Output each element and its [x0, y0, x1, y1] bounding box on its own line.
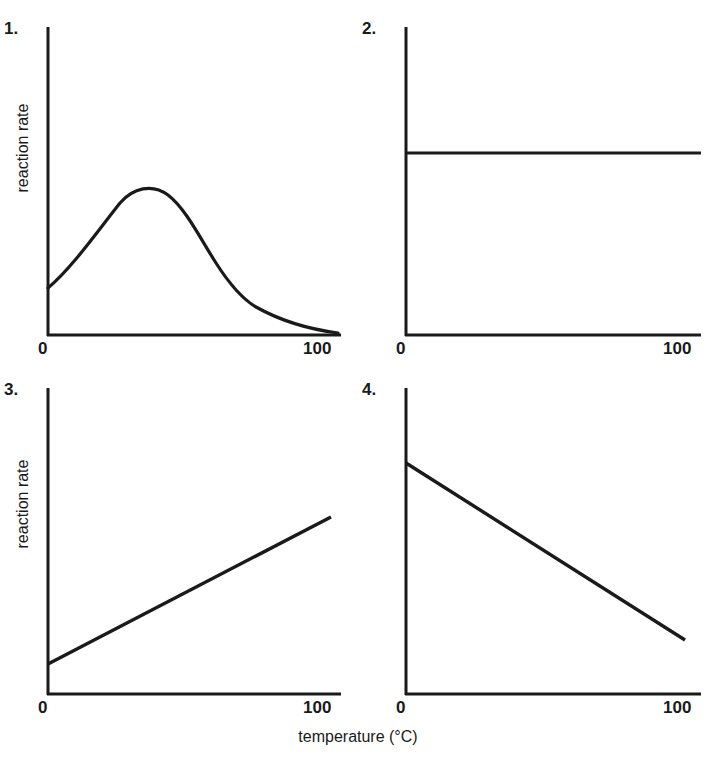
panel-3-tick-100: 100 [303, 699, 331, 716]
four-panel-graph-figure: 1. reaction rate 0 100 2. 0 100 3. react… [0, 0, 716, 757]
x-axis-title: temperature (°C) [0, 729, 716, 745]
panel-3-plot [0, 370, 358, 740]
panel-3: 3. reaction rate 0 100 [0, 370, 358, 740]
panel-2: 2. 0 100 [358, 0, 716, 370]
panel-1-plot [0, 0, 358, 370]
panel-4-tick-100: 100 [663, 699, 691, 716]
panel-4-plot [358, 370, 716, 740]
panel-3-increasing-line [48, 517, 331, 664]
panel-2-tick-100: 100 [663, 340, 691, 357]
panel-4-decreasing-line [406, 463, 685, 640]
panel-2-tick-0: 0 [396, 340, 405, 357]
panel-4: 4. 0 100 [358, 370, 716, 740]
panel-4-tick-0: 0 [396, 699, 405, 716]
panel-1: 1. reaction rate 0 100 [0, 0, 358, 370]
panel-1-tick-100: 100 [303, 340, 331, 357]
panel-3-tick-0: 0 [38, 699, 47, 716]
panel-1-curve [48, 188, 338, 333]
panel-2-plot [358, 0, 716, 370]
panel-1-tick-0: 0 [38, 340, 47, 357]
